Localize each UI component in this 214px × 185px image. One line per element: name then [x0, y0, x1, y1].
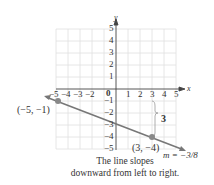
x-tick: 4	[162, 89, 167, 99]
point-a-label: (−5, −1)	[17, 104, 50, 115]
y-tick: −5	[104, 143, 114, 153]
x-axis-label: x	[187, 84, 191, 93]
x-tick: −3	[73, 89, 83, 99]
x-tick: 2	[138, 89, 143, 99]
y-tick: 2	[109, 59, 114, 69]
caption-line-2: downward from left to right.	[60, 167, 190, 179]
x-tick: −4	[61, 89, 71, 99]
rise-brace	[152, 101, 158, 137]
x-tick: 1	[126, 89, 131, 99]
axes	[56, 19, 185, 150]
x-tick: −2	[85, 89, 95, 99]
y-tick: 4	[109, 35, 114, 45]
y-tick: −1	[104, 95, 114, 105]
y-tick: −2	[104, 107, 114, 117]
point-b	[149, 134, 155, 140]
y-tick: 1	[109, 71, 114, 81]
rise-label: 3	[161, 113, 166, 124]
caption-line-1: The line slopes	[60, 155, 190, 167]
y-tick: 5	[109, 23, 114, 33]
x-tick: −5	[49, 89, 59, 99]
y-tick: −4	[104, 131, 114, 141]
x-tick: 3	[150, 89, 155, 99]
y-axis-label: y	[114, 13, 118, 22]
y-tick: −3	[104, 119, 114, 129]
point-b-label: (3, −4)	[132, 142, 159, 153]
y-tick: 3	[109, 47, 114, 57]
x-tick: 5	[174, 89, 179, 99]
